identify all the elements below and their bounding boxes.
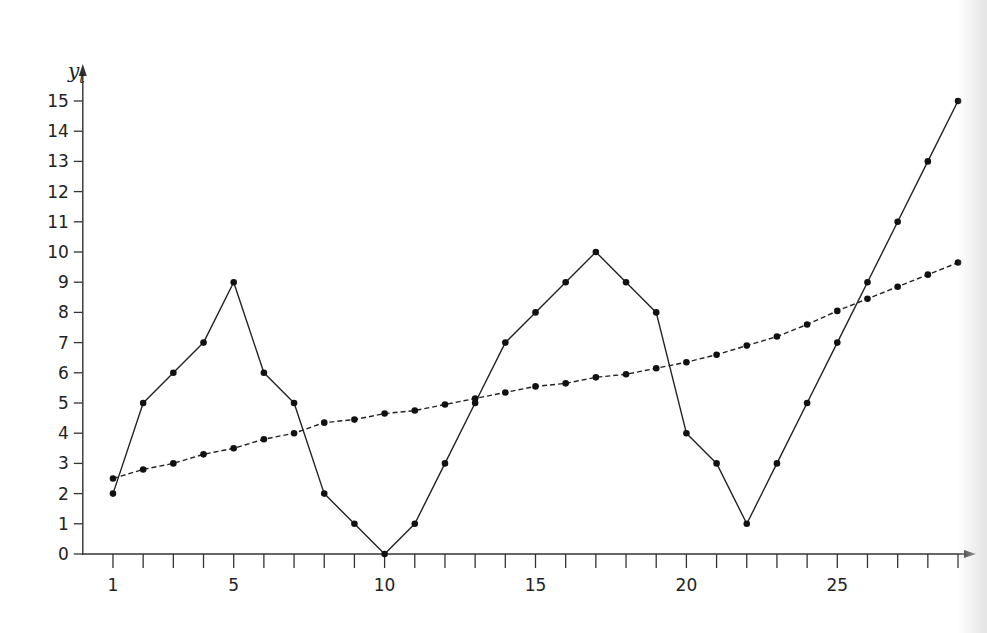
data-point-marker: [653, 309, 660, 316]
data-point-marker: [472, 395, 479, 402]
y-tick-label: 13: [47, 151, 69, 171]
y-tick-label: 4: [58, 423, 69, 443]
data-point-marker: [623, 279, 630, 286]
data-point-marker: [834, 308, 841, 315]
data-point-marker: [774, 333, 781, 340]
data-point-marker: [804, 321, 811, 328]
data-point-marker: [110, 490, 117, 497]
data-point-marker: [381, 410, 388, 417]
data-point-marker: [170, 370, 177, 377]
data-point-marker: [351, 521, 358, 528]
y-tick-label: 2: [58, 484, 69, 504]
data-point-marker: [351, 416, 358, 423]
data-point-marker: [170, 460, 177, 467]
data-point-marker: [593, 374, 600, 381]
data-point-marker: [713, 460, 720, 467]
data-point-marker: [230, 279, 237, 286]
data-point-marker: [140, 400, 147, 407]
data-point-marker: [502, 339, 509, 346]
y-tick-label: 10: [47, 242, 69, 262]
y-tick-label: 6: [58, 363, 69, 383]
y-tick-label: 8: [58, 302, 69, 322]
data-point-marker: [321, 490, 328, 497]
data-point-marker: [743, 521, 750, 528]
y-tick-label: 3: [58, 453, 69, 473]
data-point-marker: [200, 339, 207, 346]
y-tick-label: 7: [58, 333, 69, 353]
y-tick-label: 11: [47, 212, 69, 232]
data-point-marker: [925, 271, 932, 278]
trend-line: [113, 263, 958, 479]
data-point-marker: [864, 296, 871, 303]
data-point-marker: [230, 445, 237, 452]
data-point-marker: [502, 389, 509, 396]
x-tick-label: 10: [374, 575, 396, 595]
x-tick-label: 5: [228, 575, 239, 595]
page-edge-shadow: [957, 0, 987, 633]
data-point-marker: [834, 339, 841, 346]
data-point-marker: [291, 430, 298, 437]
data-point-marker: [683, 359, 690, 366]
y-tick-label: 1: [58, 514, 69, 534]
y-tick-label: 9: [58, 272, 69, 292]
data-point-marker: [261, 370, 268, 377]
data-point-marker: [653, 365, 660, 372]
y-tick-label: 12: [47, 182, 69, 202]
x-tick-label: 15: [525, 575, 547, 595]
data-point-marker: [442, 460, 449, 467]
data-point-marker: [381, 551, 388, 558]
data-point-marker: [562, 279, 569, 286]
series-observed: [110, 98, 962, 558]
y-axis-ticks: 0123456789101112131415: [47, 91, 83, 564]
y-tick-label: 5: [58, 393, 69, 413]
data-point-marker: [562, 380, 569, 387]
data-point-marker: [110, 475, 117, 482]
data-point-marker: [713, 351, 720, 358]
data-point-marker: [140, 466, 147, 473]
data-point-marker: [593, 249, 600, 256]
data-point-marker: [743, 342, 750, 349]
y-tick-label: 14: [47, 121, 69, 141]
data-point-marker: [683, 430, 690, 437]
data-point-marker: [321, 419, 328, 426]
y-axis-title: yt: [67, 59, 85, 86]
data-point-marker: [291, 400, 298, 407]
data-point-marker: [411, 521, 418, 528]
data-point-marker: [804, 400, 811, 407]
observed-line: [113, 101, 958, 554]
data-point-marker: [442, 401, 449, 408]
data-point-marker: [411, 407, 418, 414]
data-point-marker: [623, 371, 630, 378]
data-point-marker: [261, 436, 268, 443]
data-series: [110, 98, 962, 558]
x-tick-label: 20: [676, 575, 698, 595]
data-point-marker: [774, 460, 781, 467]
line-chart: 0123456789101112131415 1510152025 yt: [0, 0, 987, 633]
y-tick-label: 15: [47, 91, 69, 111]
data-point-marker: [864, 279, 871, 286]
axes: [79, 64, 976, 558]
data-point-marker: [925, 158, 932, 165]
data-point-marker: [894, 283, 901, 290]
data-point-marker: [532, 309, 539, 316]
data-point-marker: [894, 219, 901, 226]
x-axis-ticks: 1510152025: [108, 554, 958, 595]
x-tick-label: 25: [826, 575, 848, 595]
y-tick-label: 0: [58, 544, 69, 564]
x-tick-label: 1: [108, 575, 119, 595]
data-point-marker: [532, 383, 539, 390]
data-point-marker: [200, 451, 207, 458]
